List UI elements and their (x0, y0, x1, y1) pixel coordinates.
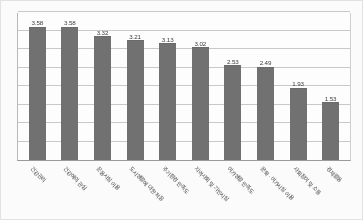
bar[interactable] (94, 36, 111, 160)
bar[interactable] (127, 40, 144, 160)
bar[interactable] (61, 27, 78, 160)
category-labels: 건강관리건강에의 관심운동시설 이용도시생활에 대한 적응주거환경 만족도지역사… (17, 163, 351, 219)
category-label-slot: 주거환경 만족도 (151, 163, 184, 219)
bar[interactable] (224, 65, 241, 160)
category-label-slot: 건강에의 관심 (53, 163, 86, 219)
bars-container: 3.583.583.323.213.133.022.532.491.931.53 (18, 13, 350, 160)
category-label-slot: 도시생활에 대한 적응 (118, 163, 151, 219)
bar-value-label: 1.53 (325, 95, 337, 102)
category-label: 운동시설 이용 (94, 165, 121, 192)
gridline (18, 11, 350, 12)
bar-group: 3.58 (21, 13, 54, 160)
bar-group: 2.53 (217, 13, 250, 160)
bar-group: 1.53 (314, 13, 347, 160)
category-label-slot: 운동시설 이용 (86, 163, 119, 219)
bar[interactable] (192, 47, 209, 160)
category-label-slot: 여가생활 만족도 (217, 163, 250, 219)
category-label: 건강에의 관심 (62, 165, 89, 192)
bar-group: 3.32 (86, 13, 119, 160)
bar-group: 3.58 (54, 13, 87, 160)
category-label-slot: 지역사회 및 기반시설 (184, 163, 217, 219)
bar[interactable] (322, 102, 339, 160)
bar-value-label: 3.13 (162, 36, 174, 43)
bar-value-label: 3.32 (97, 29, 109, 36)
bar-group: 3.02 (184, 13, 217, 160)
bar[interactable] (257, 67, 274, 160)
bar-value-label: 3.58 (64, 19, 76, 26)
bar-value-label: 3.58 (31, 19, 43, 26)
bar-group: 3.13 (151, 13, 184, 160)
category-label-slot: 사회참여 및 소통 (282, 163, 315, 219)
bar[interactable] (159, 43, 176, 160)
category-label-slot: 건강관리 (20, 163, 53, 219)
bar-group: 3.21 (119, 13, 152, 160)
bar-value-label: 2.53 (227, 58, 239, 65)
bar-group: 1.93 (282, 13, 315, 160)
bar-value-label: 2.49 (260, 59, 272, 66)
bar-chart-figure: 3.583.583.323.213.133.022.532.491.931.53… (0, 0, 363, 220)
bar[interactable] (29, 27, 46, 160)
bar[interactable] (290, 88, 307, 160)
bar-value-label: 3.21 (129, 33, 141, 40)
category-label-slot: 경제활동 (315, 163, 348, 219)
category-label: 건강관리 (29, 165, 48, 184)
bar-group: 2.49 (249, 13, 282, 160)
category-label: 경제활동 (324, 165, 343, 184)
bar-value-label: 3.02 (194, 40, 206, 47)
bar-value-label: 1.93 (292, 80, 304, 87)
category-label-slot: 문화 · 여가시설 이용 (250, 163, 283, 219)
plot-area: 3.583.583.323.213.133.022.532.491.931.53 (17, 13, 351, 161)
